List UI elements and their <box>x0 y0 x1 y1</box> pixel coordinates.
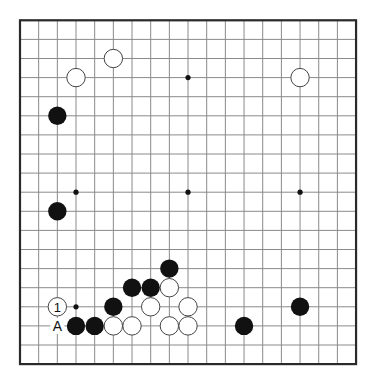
black-stone[interactable] <box>123 279 141 297</box>
black-stone[interactable] <box>141 279 159 297</box>
black-stone[interactable] <box>160 259 178 277</box>
point-label-text: A <box>53 318 63 334</box>
black-stone[interactable] <box>235 317 253 335</box>
black-stone[interactable] <box>48 107 66 125</box>
white-stone-icon <box>104 49 122 67</box>
black-stone-icon <box>141 279 159 297</box>
white-stone[interactable] <box>123 317 141 335</box>
black-stone[interactable] <box>104 298 122 316</box>
white-stone-icon <box>160 279 178 297</box>
star-point-icon <box>185 190 190 195</box>
black-stone-icon <box>48 202 66 220</box>
black-stone-icon <box>291 298 309 316</box>
black-stone-icon <box>235 317 253 335</box>
go-board: 1 A <box>0 0 376 388</box>
star-point-icon <box>73 190 78 195</box>
white-stone-icon <box>179 298 197 316</box>
black-stone[interactable] <box>48 202 66 220</box>
black-stone-icon <box>104 298 122 316</box>
white-stone-icon <box>123 317 141 335</box>
white-stone[interactable] <box>141 298 159 316</box>
point-label-a: A <box>50 318 64 335</box>
star-point-icon <box>185 75 190 80</box>
white-stone-icon <box>291 68 309 86</box>
black-stone-icon <box>67 317 85 335</box>
black-stone-icon <box>160 259 178 277</box>
white-stone[interactable] <box>160 317 178 335</box>
white-stone[interactable]: 1 <box>48 298 66 316</box>
white-stone[interactable] <box>104 317 122 335</box>
white-stone[interactable] <box>179 298 197 316</box>
black-stone-icon <box>85 317 103 335</box>
white-stone-icon <box>160 317 178 335</box>
white-stone[interactable] <box>291 68 309 86</box>
black-stone[interactable] <box>67 317 85 335</box>
black-stone-icon <box>48 107 66 125</box>
white-stone[interactable] <box>104 49 122 67</box>
black-stone-icon <box>123 279 141 297</box>
white-stone[interactable] <box>179 317 197 335</box>
white-stone-icon <box>67 68 85 86</box>
white-stone-icon <box>104 317 122 335</box>
black-stone[interactable] <box>85 317 103 335</box>
black-stone[interactable] <box>291 298 309 316</box>
white-stone-icon <box>141 298 159 316</box>
star-point-icon <box>73 304 78 309</box>
star-point-icon <box>297 190 302 195</box>
white-stone[interactable] <box>67 68 85 86</box>
white-stone[interactable] <box>160 279 178 297</box>
move-number-label: 1 <box>54 300 61 315</box>
white-stone-icon <box>179 317 197 335</box>
point-labels-layer: A <box>50 318 64 335</box>
